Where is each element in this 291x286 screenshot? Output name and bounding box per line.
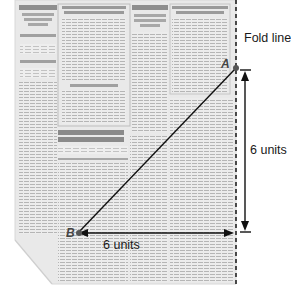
point-b-marker (76, 230, 82, 236)
point-a-marker (233, 65, 239, 71)
point-a-label: A (221, 58, 230, 70)
headline (19, 5, 57, 10)
point-b-label: B (66, 227, 75, 239)
arrowhead-up-icon (241, 71, 249, 81)
arrowhead-down-icon (241, 221, 249, 231)
fold-line-label: Fold line (244, 32, 291, 45)
fold-diagram: Fold line A B 6 units 6 units (0, 0, 291, 286)
horizontal-dimension-label: 6 units (103, 239, 140, 252)
vertical-dimension-label: 6 units (250, 144, 287, 157)
